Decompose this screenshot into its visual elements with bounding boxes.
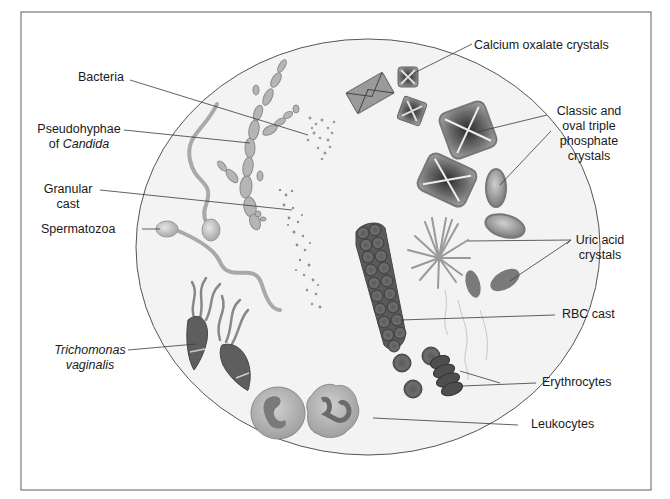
label-leukocytes: Leukocytes xyxy=(531,417,594,432)
label-text: of xyxy=(49,137,63,151)
label-triple-phosphate-line3: phosphate xyxy=(549,134,629,149)
label-candida: Candida xyxy=(63,137,110,151)
label-bacteria: Bacteria xyxy=(78,70,124,85)
label-pseudohyphae-line1: Pseudohyphae xyxy=(34,122,124,137)
label-triple-phosphate: Classic and oval triple phosphate crysta… xyxy=(549,104,629,164)
label-granular-cast: Granular cast xyxy=(40,182,96,212)
label-rbc-cast: RBC cast xyxy=(562,307,615,322)
label-trichomonas: Trichomonas vaginalis xyxy=(52,343,128,373)
label-uric-acid-line2: crystals xyxy=(570,248,630,263)
label-trichomonas-line2: vaginalis xyxy=(52,358,128,373)
label-triple-phosphate-line4: crystals xyxy=(549,149,629,164)
label-granular-line1: Granular xyxy=(40,182,96,197)
urine-sediment-diagram: Bacteria Pseudohyphae of Candida Granula… xyxy=(0,0,670,499)
label-spermatozoa: Spermatozoa xyxy=(41,222,115,237)
spermatozoa-head-icon xyxy=(202,219,220,241)
label-pseudohyphae: Pseudohyphae of Candida xyxy=(34,122,124,152)
label-triple-phosphate-line1: Classic and xyxy=(549,104,629,119)
label-pseudohyphae-line2: of Candida xyxy=(34,137,124,152)
label-triple-phosphate-line2: oval triple xyxy=(549,119,629,134)
label-trichomonas-line1: Trichomonas xyxy=(52,343,128,358)
label-uric-acid-line1: Uric acid xyxy=(570,233,630,248)
label-uric-acid: Uric acid crystals xyxy=(570,233,630,263)
label-granular-line2: cast xyxy=(40,197,96,212)
label-calcium-oxalate: Calcium oxalate crystals xyxy=(474,38,609,53)
label-erythrocytes: Erythrocytes xyxy=(542,375,611,390)
